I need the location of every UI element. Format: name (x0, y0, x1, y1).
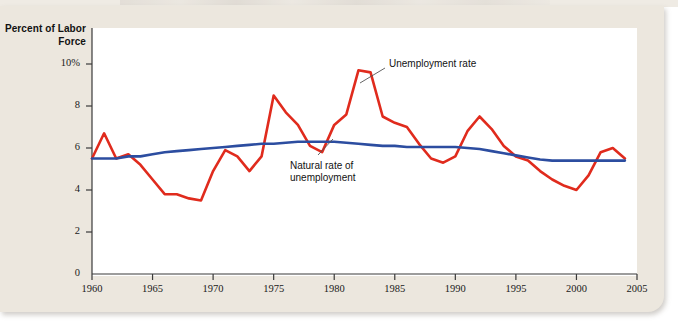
x-tick-label: 1980 (314, 283, 354, 294)
x-tick-label: 1970 (193, 283, 233, 294)
annotation-unemployment-rate: Unemployment rate (389, 58, 476, 70)
x-tick-label: 2005 (617, 283, 657, 294)
y-tick-label: 10% (44, 57, 80, 68)
x-tick-label: 1985 (375, 283, 415, 294)
x-tick-label: 1965 (133, 283, 173, 294)
x-tick-label: 1975 (254, 283, 294, 294)
y-tick-label: 4 (44, 183, 80, 194)
y-tick-label: 8 (44, 99, 80, 110)
annotation-natural-rate: Natural rate of unemployment (290, 160, 356, 184)
x-tick-label: 1960 (72, 283, 112, 294)
x-tick-label: 1990 (435, 283, 475, 294)
y-tick-label: 2 (44, 225, 80, 236)
y-tick-label: 6 (44, 141, 80, 152)
y-tick-label: 0 (44, 267, 80, 278)
x-tick-label: 1995 (496, 283, 536, 294)
x-tick-label: 2000 (556, 283, 596, 294)
figure-page: Percent of Labor Force 10%86420196019651… (0, 0, 678, 328)
